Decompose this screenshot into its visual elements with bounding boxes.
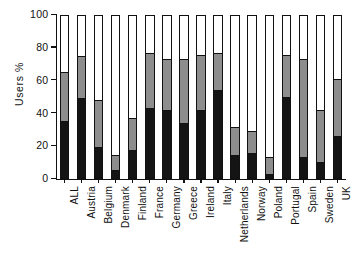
bar-group[interactable] — [179, 15, 188, 179]
x-tick-label: Poland — [273, 186, 284, 218]
x-tick — [320, 179, 321, 184]
bar-segment-black — [197, 110, 204, 178]
x-tick-label: Ireland — [205, 186, 216, 218]
y-tick-label: 80 — [36, 41, 48, 53]
y-axis-title: Users % — [13, 41, 25, 127]
bar-segment-black — [180, 123, 187, 178]
x-tick-label: Denmark — [120, 186, 131, 228]
x-tick — [149, 179, 150, 184]
bar-segment-black — [163, 110, 170, 178]
bar-group[interactable] — [128, 15, 137, 179]
bar-group[interactable] — [333, 15, 342, 179]
bars-layer — [56, 15, 346, 179]
x-tick — [252, 179, 253, 184]
x-tick-label: Finland — [137, 186, 148, 220]
bar-stack[interactable] — [60, 15, 69, 179]
y-tick-label: 20 — [36, 139, 48, 151]
x-tick — [286, 179, 287, 184]
bar-group[interactable] — [77, 15, 86, 179]
x-tick-label: Belgium — [103, 186, 114, 224]
bar-stack[interactable] — [145, 15, 154, 179]
x-tick-label: Sweden — [324, 186, 335, 223]
x-tick — [98, 179, 99, 184]
bar-stack[interactable] — [196, 15, 205, 179]
chart-figure: Users % 020406080100 ALLAustriaBelgiumDe… — [0, 0, 355, 258]
x-tick-label: Austria — [86, 186, 97, 219]
y-tick-label: 40 — [36, 107, 48, 119]
x-tick — [183, 179, 184, 184]
bar-segment-black — [300, 157, 307, 178]
x-tick — [64, 179, 65, 184]
bar-stack[interactable] — [282, 15, 291, 179]
bar-segment-black — [248, 153, 255, 177]
bar-stack[interactable] — [94, 15, 103, 179]
bar-group[interactable] — [265, 15, 274, 179]
y-tick-label: 0 — [42, 172, 48, 184]
x-tick — [217, 179, 218, 184]
x-tick-label: Netherlands — [239, 186, 250, 242]
bar-group[interactable] — [213, 15, 222, 179]
bar-stack[interactable] — [162, 15, 171, 179]
bar-group[interactable] — [162, 15, 171, 179]
y-tick-label: 60 — [36, 74, 48, 86]
bar-segment-black — [231, 155, 238, 178]
bar-group[interactable] — [299, 15, 308, 179]
bar-segment-black — [78, 98, 85, 177]
x-tick-label: Norway — [256, 186, 267, 221]
x-tick — [166, 179, 167, 184]
bar-segment-black — [129, 150, 136, 178]
x-tick-label: France — [154, 186, 165, 218]
bar-stack[interactable] — [299, 15, 308, 179]
plot-area: 020406080100 ALLAustriaBelgiumDenmarkFin… — [56, 15, 346, 179]
x-tick — [115, 179, 116, 184]
x-tick — [235, 179, 236, 184]
x-tick — [132, 179, 133, 184]
bar-group[interactable] — [196, 15, 205, 179]
bar-stack[interactable] — [247, 15, 256, 179]
bar-stack[interactable] — [179, 15, 188, 179]
bar-stack[interactable] — [111, 15, 120, 179]
x-tick — [200, 179, 201, 184]
bar-segment-black — [334, 136, 341, 178]
bar-segment-black — [61, 121, 68, 178]
bar-stack[interactable] — [230, 15, 239, 179]
bar-group[interactable] — [230, 15, 239, 179]
x-tick-label: Greece — [188, 186, 199, 220]
bar-stack[interactable] — [333, 15, 342, 179]
x-tick — [269, 179, 270, 184]
bar-segment-black — [283, 97, 290, 178]
x-tick-label: Italy — [222, 186, 233, 205]
bar-segment-black — [317, 162, 324, 178]
x-tick — [303, 179, 304, 184]
bar-segment-black — [95, 147, 102, 178]
x-tick-label: Spain — [307, 186, 318, 213]
bar-stack[interactable] — [128, 15, 137, 179]
x-tick-label: Germany — [171, 186, 182, 229]
x-tick-label: UK — [341, 186, 352, 200]
bar-segment-black — [112, 170, 119, 178]
bar-group[interactable] — [282, 15, 291, 179]
bar-group[interactable] — [60, 15, 69, 179]
bar-group[interactable] — [316, 15, 325, 179]
bar-group[interactable] — [111, 15, 120, 179]
y-tick-label: 100 — [30, 8, 48, 20]
bar-stack[interactable] — [77, 15, 86, 179]
bar-stack[interactable] — [265, 15, 274, 179]
x-tick-label: Portugal — [290, 186, 301, 225]
bar-segment-black — [146, 108, 153, 178]
bar-stack[interactable] — [213, 15, 222, 179]
x-tick — [337, 179, 338, 184]
bar-segment-black — [214, 90, 221, 177]
bar-group[interactable] — [247, 15, 256, 179]
bar-group[interactable] — [94, 15, 103, 179]
bar-stack[interactable] — [316, 15, 325, 179]
bar-segment-black — [266, 174, 273, 177]
x-tick-label: ALL — [69, 186, 80, 204]
bar-group[interactable] — [145, 15, 154, 179]
x-tick — [81, 179, 82, 184]
